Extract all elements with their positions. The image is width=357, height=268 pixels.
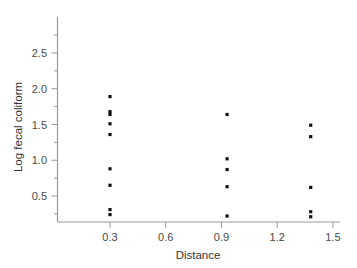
x-axis-title: Distance (176, 249, 221, 261)
x-tick-label: 0.3 (102, 231, 117, 243)
figure-background (0, 0, 357, 268)
x-tick-label: 0.9 (214, 231, 229, 243)
data-point (225, 157, 228, 160)
data-point (309, 186, 312, 189)
data-point (309, 215, 312, 218)
data-point (108, 110, 111, 113)
data-point (225, 113, 228, 116)
data-point (309, 210, 312, 213)
data-point (309, 135, 312, 138)
data-point (108, 184, 111, 187)
data-point (108, 167, 111, 170)
data-point (225, 185, 228, 188)
y-tick-label: 1.0 (32, 154, 47, 166)
scatter-plot-figure: 0.51.01.52.02.5 Log fecal coliform 0.30.… (0, 0, 357, 268)
data-point (108, 95, 111, 98)
data-point (309, 124, 312, 127)
data-point (225, 168, 228, 171)
y-tick-label: 2.0 (32, 83, 47, 95)
data-point (108, 213, 111, 216)
y-tick-label: 2.5 (32, 47, 47, 59)
data-point (108, 122, 111, 125)
y-tick-label: 0.5 (32, 190, 47, 202)
data-point (108, 113, 111, 116)
y-axis-title: Log fecal coliform (12, 82, 24, 172)
x-tick-label: 1.5 (325, 231, 340, 243)
y-tick-label: 1.5 (32, 119, 47, 131)
data-point (108, 133, 111, 136)
data-point (225, 214, 228, 217)
x-tick-label: 1.2 (270, 231, 285, 243)
plot-canvas: 0.51.01.52.02.5 Log fecal coliform 0.30.… (0, 0, 357, 268)
data-point (108, 208, 111, 211)
x-tick-label: 0.6 (158, 231, 173, 243)
